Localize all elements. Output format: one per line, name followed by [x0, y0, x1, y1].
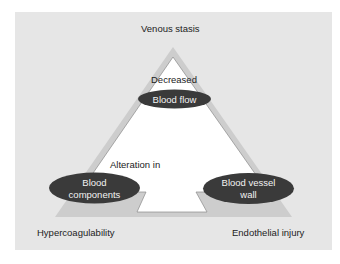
- endothelial-injury-label: Endothelial injury: [232, 228, 304, 238]
- blood-vessel-wall-line2: wall: [240, 189, 256, 200]
- blood-components-line1: Blood: [82, 177, 106, 188]
- blood-vessel-wall-text: Blood vessel wall: [203, 173, 294, 204]
- blood-flow-label: Blood flow: [153, 94, 197, 105]
- hypercoagulability-label: Hypercoagulability: [37, 228, 115, 238]
- venous-stasis-label: Venous stasis: [141, 24, 200, 34]
- blood-components-text: Blood components: [49, 173, 140, 204]
- alteration-in-label: Alteration in: [110, 160, 160, 170]
- blood-flow-text: Blood flow: [138, 90, 211, 109]
- decreased-label: Decreased: [151, 75, 197, 85]
- triad-triangle: [0, 0, 340, 264]
- blood-vessel-wall-line1: Blood vessel: [222, 177, 276, 188]
- blood-components-line2: components: [69, 189, 121, 200]
